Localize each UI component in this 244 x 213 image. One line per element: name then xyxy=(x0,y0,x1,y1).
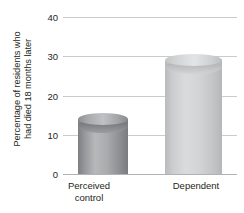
y-axis-title-line-2: had died 18 months later xyxy=(23,39,34,139)
bar-perceived-control-body xyxy=(78,119,128,174)
bar-dependent-cap xyxy=(165,54,222,66)
bar-perceived-control xyxy=(78,119,128,174)
y-axis-title: Percentage of residents who had died 18 … xyxy=(6,4,40,174)
y-tick-label-30: 30 xyxy=(47,51,58,62)
x-tick-label-perceived-control-line-2: control xyxy=(58,192,120,204)
x-tick-label-dependent: Dependent xyxy=(160,180,232,192)
bar-chart: Percentage of residents who had died 18 … xyxy=(0,0,244,213)
plot-area: 40 30 20 10 0 xyxy=(63,17,237,174)
y-tick-label-0: 0 xyxy=(53,169,58,180)
gridline-40: 40 xyxy=(63,17,237,18)
x-tick-label-dependent-line-1: Dependent xyxy=(160,180,232,192)
x-tick-label-perceived-control-line-1: Perceived xyxy=(58,180,120,192)
bar-dependent-body xyxy=(165,60,222,174)
x-tick-label-perceived-control: Perceived control xyxy=(58,180,120,204)
y-tick-label-20: 20 xyxy=(47,90,58,101)
y-axis-title-line-1: Percentage of residents who xyxy=(12,31,23,146)
bar-perceived-control-cap xyxy=(78,113,128,125)
bar-dependent xyxy=(165,60,222,174)
y-tick-label-10: 10 xyxy=(47,129,58,140)
y-tick-label-40: 40 xyxy=(47,12,58,23)
gridline-0: 0 xyxy=(63,174,237,175)
